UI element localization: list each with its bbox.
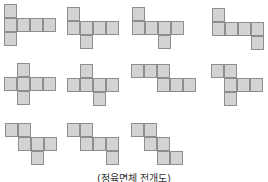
net-square bbox=[224, 92, 237, 106]
net-square bbox=[144, 64, 157, 78]
net-square bbox=[251, 36, 264, 50]
net-square bbox=[212, 22, 225, 36]
net-square bbox=[158, 35, 171, 49]
net-square bbox=[67, 21, 80, 35]
net-square bbox=[183, 78, 196, 92]
net-square bbox=[237, 78, 250, 92]
net-square bbox=[80, 21, 93, 35]
net-square bbox=[158, 21, 171, 35]
net-square bbox=[93, 137, 106, 151]
net-square bbox=[80, 35, 93, 49]
net-square bbox=[212, 8, 225, 22]
net-square bbox=[170, 78, 183, 92]
net-square bbox=[67, 123, 80, 137]
net-square bbox=[131, 123, 144, 137]
net-square bbox=[157, 64, 170, 78]
net-square bbox=[18, 123, 31, 137]
net-square bbox=[67, 78, 80, 92]
net-square bbox=[43, 77, 56, 91]
net-square bbox=[80, 78, 93, 92]
net-square bbox=[106, 78, 119, 92]
cube-nets-diagram bbox=[0, 0, 268, 182]
net-square bbox=[144, 123, 157, 137]
net-square bbox=[106, 21, 119, 35]
net-square bbox=[106, 151, 119, 165]
net-square bbox=[171, 21, 184, 35]
net-square bbox=[93, 21, 106, 35]
net-square bbox=[144, 137, 157, 151]
net-square bbox=[170, 151, 183, 165]
net-square bbox=[31, 151, 44, 165]
net-square bbox=[30, 18, 43, 32]
net-square bbox=[5, 123, 18, 137]
net-square bbox=[157, 137, 170, 151]
net-square bbox=[132, 21, 145, 35]
net-square bbox=[80, 64, 93, 78]
net-square bbox=[131, 64, 144, 78]
net-square bbox=[44, 137, 57, 151]
net-square bbox=[250, 78, 263, 92]
net-square bbox=[67, 7, 80, 21]
net-square bbox=[17, 18, 30, 32]
net-square bbox=[93, 92, 106, 106]
net-square bbox=[106, 137, 119, 151]
net-square bbox=[17, 77, 30, 91]
net-square bbox=[224, 64, 237, 78]
net-square bbox=[31, 137, 44, 151]
net-square bbox=[132, 7, 145, 21]
net-square bbox=[4, 18, 17, 32]
net-square bbox=[4, 4, 17, 18]
net-square bbox=[43, 18, 56, 32]
diagram-caption: (정육면체 전개도) bbox=[0, 173, 268, 182]
net-square bbox=[18, 137, 31, 151]
net-square bbox=[251, 22, 264, 36]
net-square bbox=[145, 21, 158, 35]
net-square bbox=[157, 78, 170, 92]
net-square bbox=[238, 22, 251, 36]
net-square bbox=[17, 63, 30, 77]
net-square bbox=[80, 123, 93, 137]
net-square bbox=[80, 137, 93, 151]
net-square bbox=[17, 91, 30, 105]
net-square bbox=[225, 22, 238, 36]
net-square bbox=[211, 64, 224, 78]
net-square bbox=[4, 77, 17, 91]
net-square bbox=[157, 151, 170, 165]
net-square bbox=[224, 78, 237, 92]
net-square bbox=[30, 77, 43, 91]
net-square bbox=[93, 78, 106, 92]
net-square bbox=[4, 32, 17, 46]
